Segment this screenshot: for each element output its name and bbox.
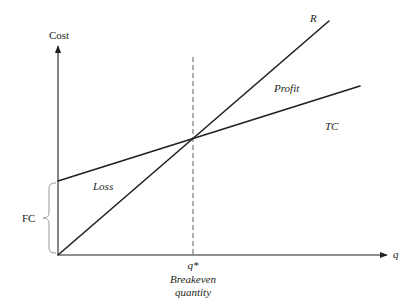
y-axis-label: Cost — [49, 29, 69, 41]
total-cost-line — [58, 86, 360, 181]
fixed-cost-label: FC — [22, 212, 35, 224]
total-cost-label: TC — [325, 120, 339, 132]
x-axis-label: q — [393, 248, 399, 260]
fixed-cost-brace-icon — [43, 183, 56, 253]
breakeven-caption-line1: Breakeven — [170, 273, 217, 285]
loss-region-label: Loss — [92, 180, 113, 192]
revenue-line — [58, 21, 329, 255]
breakeven-caption-line2: quantity — [175, 286, 211, 298]
breakeven-quantity-symbol: q* — [188, 259, 200, 271]
breakeven-diagram: Cost q R TC Profit Loss FC q* Breakeven … — [0, 0, 414, 305]
profit-region-label: Profit — [273, 82, 300, 94]
revenue-label: R — [309, 12, 317, 24]
